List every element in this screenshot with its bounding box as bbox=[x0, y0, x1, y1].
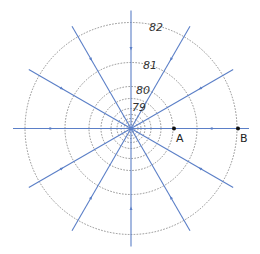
point-a-marker bbox=[172, 127, 176, 131]
field-line bbox=[131, 70, 233, 129]
contour-label-80: 80 bbox=[136, 84, 150, 97]
field-line bbox=[72, 129, 131, 231]
arrow-icon bbox=[130, 207, 133, 211]
points: A B bbox=[172, 127, 248, 146]
field-line bbox=[72, 26, 131, 128]
contour-label-79: 79 bbox=[132, 101, 146, 114]
point-b-label: B bbox=[240, 132, 248, 145]
field-line bbox=[29, 70, 131, 129]
arrow-icon bbox=[130, 47, 133, 51]
contour-field-diagram: 82 81 80 79 A B bbox=[0, 0, 260, 254]
arrow-icon bbox=[50, 127, 54, 130]
field-line bbox=[29, 129, 131, 188]
field-lines bbox=[13, 11, 249, 247]
point-a-label: A bbox=[176, 132, 184, 145]
contour-label-81: 81 bbox=[143, 59, 157, 72]
point-b-marker bbox=[236, 127, 240, 131]
contour-label-82: 82 bbox=[149, 21, 163, 34]
arrow-icon bbox=[209, 127, 213, 130]
